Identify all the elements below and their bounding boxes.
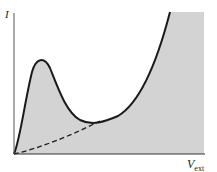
x-axis-label-sub: ext — [194, 164, 204, 172]
y-axis-label: I — [5, 8, 9, 20]
x-axis-label: Vext — [187, 157, 204, 172]
diagram-canvas — [0, 0, 217, 172]
shaded-area — [14, 12, 204, 154]
